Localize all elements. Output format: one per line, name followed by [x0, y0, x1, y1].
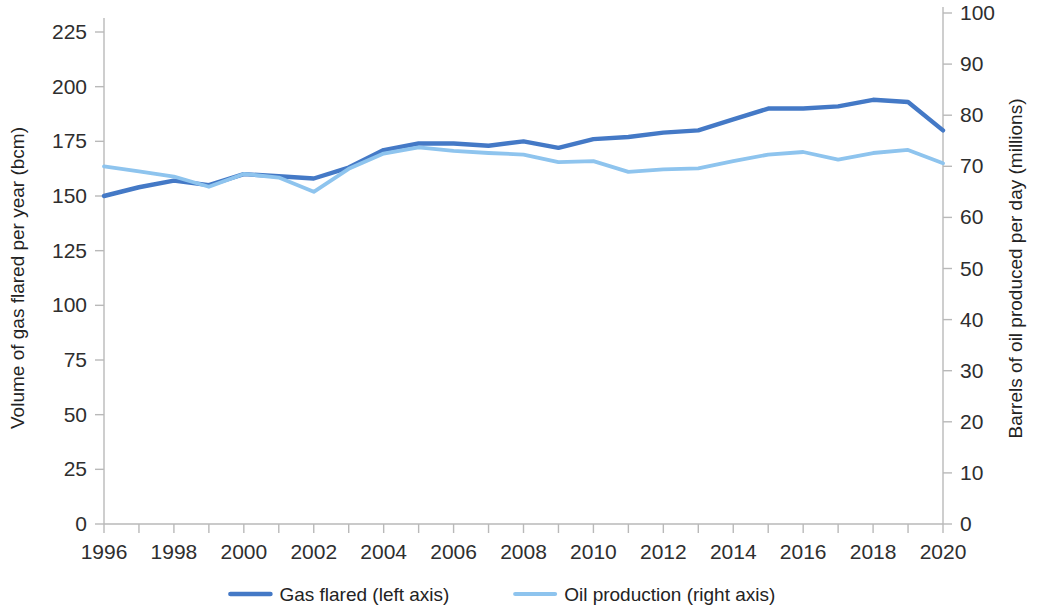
left-axis-tick-label: 0: [75, 512, 87, 535]
right-axis-tick-label: 30: [960, 359, 983, 382]
axis-titles: Volume of gas flared per year (bcm)Barre…: [7, 98, 1026, 438]
x-axis-tick-label: 2010: [570, 540, 617, 563]
left-axis-tick-label: 25: [64, 457, 87, 480]
chart-legend: Gas flared (left axis)Oil production (ri…: [230, 584, 775, 605]
axis-lines: [104, 7, 943, 524]
right-axis-tick-label: 50: [960, 257, 983, 280]
x-axis-tick-label: 2020: [920, 540, 967, 563]
left-axis-tick-label: 150: [52, 184, 87, 207]
x-axis-tick-label: 2002: [290, 540, 337, 563]
x-axis-tick-label: 2006: [430, 540, 477, 563]
data-series-group: [104, 100, 943, 196]
x-axis-tick-label: 2016: [780, 540, 827, 563]
right-axis-tick-label: 40: [960, 308, 983, 331]
right-axis-tick-label: 70: [960, 154, 983, 177]
right-axis-tick-label: 100: [960, 1, 995, 24]
left-axis-tick-label: 200: [52, 75, 87, 98]
right-axis-tick-label: 90: [960, 52, 983, 75]
left-axis-ticks: 0255075100125150175200225: [52, 20, 104, 535]
right-axis-tick-label: 0: [960, 512, 972, 535]
chart-container: 0255075100125150175200225 01020304050607…: [0, 0, 1039, 611]
x-axis-tick-label: 2012: [640, 540, 687, 563]
legend-label-gas-flared: Gas flared (left axis): [279, 584, 449, 605]
left-axis-tick-label: 75: [64, 348, 87, 371]
left-axis-tick-label: 225: [52, 20, 87, 43]
series-line-oil-production: [104, 147, 943, 191]
left-axis-tick-label: 175: [52, 129, 87, 152]
legend-label-oil-production: Oil production (right axis): [564, 584, 775, 605]
x-axis-tick-label: 2018: [850, 540, 897, 563]
x-axis-tick-label: 1996: [81, 540, 128, 563]
line-chart: 0255075100125150175200225 01020304050607…: [0, 0, 1039, 611]
x-axis-tick-label: 2014: [710, 540, 757, 563]
right-axis-tick-label: 10: [960, 461, 983, 484]
x-axis-ticks: 1996199820002002200420062008201020122014…: [81, 524, 967, 563]
left-axis-tick-label: 100: [52, 293, 87, 316]
x-axis-tick-label: 2004: [360, 540, 407, 563]
x-axis-tick-label: 1998: [151, 540, 198, 563]
right-axis-title: Barrels of oil produced per day (million…: [1005, 98, 1026, 438]
x-axis-tick-label: 2008: [500, 540, 547, 563]
x-axis-tick-label: 2000: [220, 540, 267, 563]
right-axis-ticks: 0102030405060708090100: [943, 1, 995, 535]
left-axis-tick-label: 125: [52, 239, 87, 262]
left-axis-tick-label: 50: [64, 403, 87, 426]
right-axis-tick-label: 20: [960, 410, 983, 433]
right-axis-tick-label: 80: [960, 103, 983, 126]
right-axis-tick-label: 60: [960, 205, 983, 228]
series-line-gas-flared: [104, 100, 943, 196]
left-axis-title: Volume of gas flared per year (bcm): [7, 127, 28, 429]
